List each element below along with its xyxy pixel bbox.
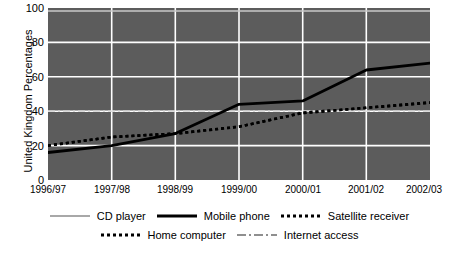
x-tick-2000-01: 2000/01 [268,184,338,195]
legend-row-2: Home computer Internet access [0,225,458,244]
legend-label-cd-player: CD player [97,210,146,222]
legend-item-internet-access: Internet access [236,229,359,241]
plot-area [48,8,430,180]
x-tick-2002-03: 2002/03 [389,184,458,195]
y-tick-40: 40 [0,106,44,117]
y-tick-100: 100 [0,3,44,14]
legend-row-1: CD player Mobile phone Satellite receive… [0,206,458,225]
legend-label-satellite-receiver: Satellite receiver [328,210,409,222]
legend-label-internet-access: Internet access [284,229,359,241]
line-dotted-black-icon [280,211,322,221]
legend-item-mobile-phone: Mobile phone [156,210,270,222]
y-tick-60: 60 [0,72,44,83]
vertical-gridlines [112,8,367,180]
x-tick-1999-00: 1999/00 [204,184,274,195]
legend-item-satellite-receiver: Satellite receiver [280,210,409,222]
chart-legend: CD player Mobile phone Satellite receive… [0,206,458,244]
legend-item-cd-player: CD player [49,210,146,222]
line-dashdot-gray-icon [236,230,278,240]
legend-label-mobile-phone: Mobile phone [204,210,270,222]
y-tick-80: 80 [0,37,44,48]
line-solid-gray-icon [49,211,91,221]
chart-figure: United Kingdom Percentages 100 80 60 40 … [0,0,458,256]
x-tick-1996-97: 1996/97 [13,184,83,195]
legend-item-home-computer: Home computer [100,229,226,241]
x-tick-1998-99: 1998/99 [140,184,210,195]
legend-label-home-computer: Home computer [148,229,226,241]
line-dotted-black-icon [100,230,142,240]
y-tick-20: 20 [0,141,44,152]
plot-svg [48,8,430,180]
x-tick-1997-98: 1997/98 [77,184,147,195]
line-solid-black-icon [156,211,198,221]
